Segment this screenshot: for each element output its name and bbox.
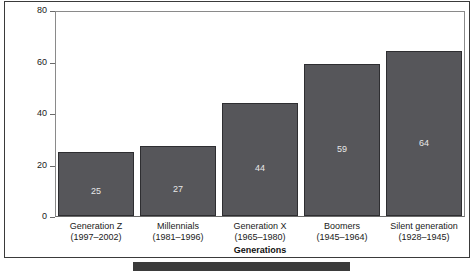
chart-figure: % Voting in every election 020406080 252… <box>0 0 474 271</box>
x-category-label: Millennials(1981–1996) <box>137 221 219 243</box>
bottom-cutoff-strip <box>133 262 350 271</box>
y-tick-label: 60 <box>37 57 47 67</box>
x-category-years: (1965–1980) <box>219 232 301 243</box>
x-category-name: Silent generation <box>390 221 458 231</box>
x-category-years: (1997–2002) <box>55 232 137 243</box>
bar-value-label: 64 <box>387 138 461 148</box>
bar: 27 <box>140 146 216 216</box>
x-category-years: (1928–1945) <box>383 232 465 243</box>
y-tick-label: 0 <box>42 211 47 221</box>
y-tick-20: 20 <box>5 166 55 167</box>
y-tick-60: 60 <box>5 63 55 64</box>
x-category-name: Generation Z <box>70 221 123 231</box>
bar-value-label: 27 <box>141 184 215 194</box>
x-category-years: (1981–1996) <box>137 232 219 243</box>
x-category-name: Millennials <box>157 221 199 231</box>
bar: 59 <box>304 64 380 216</box>
x-category-name: Generation X <box>233 221 286 231</box>
y-tick-label: 20 <box>37 160 47 170</box>
y-tick-0: 0 <box>5 217 55 218</box>
y-tick-40: 40 <box>5 114 55 115</box>
bar: 25 <box>58 152 134 216</box>
figure-border: % Voting in every election 020406080 252… <box>4 1 470 258</box>
x-category-label: Generation Z(1997–2002) <box>55 221 137 243</box>
y-tick-label: 40 <box>37 108 47 118</box>
x-category-label: Silent generation(1928–1945) <box>383 221 465 243</box>
plot-area: 2527445964 <box>55 11 465 217</box>
bar: 44 <box>222 103 298 216</box>
bar: 64 <box>386 51 462 216</box>
x-axis-title: Generations <box>55 245 465 255</box>
bar-value-label: 25 <box>59 186 133 196</box>
x-category-years: (1945–1964) <box>301 232 383 243</box>
y-tick-80: 80 <box>5 11 55 12</box>
x-category-label: Boomers(1945–1964) <box>301 221 383 243</box>
bar-value-label: 44 <box>223 163 297 173</box>
y-tick-label: 80 <box>37 5 47 15</box>
y-tick-mark <box>50 217 55 218</box>
bar-value-label: 59 <box>305 144 379 154</box>
x-category-name: Boomers <box>324 221 360 231</box>
x-category-label: Generation X(1965–1980) <box>219 221 301 243</box>
